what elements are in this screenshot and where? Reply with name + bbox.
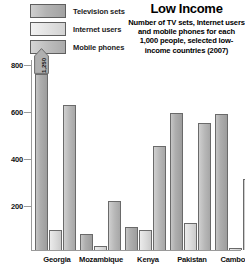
y-tick-label-800: 800 xyxy=(1,61,23,70)
x-tick-label-kenya: Kenya xyxy=(125,255,171,264)
legend-item-internet-users: Internet users xyxy=(0,21,128,37)
title-block: Low Income Number of TV sets, Internet u… xyxy=(128,2,245,55)
x-tick-label-cambodia: Cambodia xyxy=(212,255,245,264)
bar-group-pakistan xyxy=(170,55,212,250)
bar-group-kenya xyxy=(125,55,167,250)
x-tick-label-mozambique: Mozambique xyxy=(74,255,128,264)
y-tick-label-400: 400 xyxy=(1,155,23,164)
bar-mozambique-internet-users[interactable] xyxy=(94,246,107,250)
chart-root: Television sets Internet users Mobile ph… xyxy=(0,0,245,270)
legend-label-internet-users: Internet users xyxy=(73,25,121,34)
plot-area: 800 600 400 200 1,250 xyxy=(0,55,245,270)
x-tick-label-pakistan: Pakistan xyxy=(167,255,217,264)
y-tick-label-200: 200 xyxy=(1,202,23,211)
y-tick-label-600: 600 xyxy=(1,108,23,117)
bar-group-mozambique xyxy=(80,55,122,250)
bar-kenya-mobile-phones[interactable] xyxy=(153,146,166,250)
chart-legend: Television sets Internet users Mobile ph… xyxy=(0,3,128,57)
y-tick-mark-600 xyxy=(24,112,31,113)
bar-kenya-television-sets[interactable] xyxy=(125,227,138,250)
bar-kenya-internet-users[interactable] xyxy=(139,230,152,250)
bar-pakistan-television-sets[interactable] xyxy=(170,113,183,250)
legend-swatch-internet-users xyxy=(30,22,66,36)
bar-cambodia-mobile-phones[interactable] xyxy=(243,179,245,250)
bar-georgia-mobile-phones[interactable] xyxy=(63,105,76,250)
legend-swatch-television-sets xyxy=(30,4,66,18)
bar-georgia-internet-users[interactable] xyxy=(49,230,62,250)
x-axis-line xyxy=(31,250,241,251)
chart-title: Low Income xyxy=(128,2,245,16)
x-axis-labels: Georgia Mozambique Kenya Pakistan Cambod… xyxy=(32,253,241,269)
legend-item-mobile-phones: Mobile phones xyxy=(0,39,128,55)
bar-group-cambodia xyxy=(215,55,245,250)
bar-georgia-overflow-value: 1,250 xyxy=(41,58,44,73)
y-tick-mark-800 xyxy=(24,65,31,66)
legend-label-mobile-phones: Mobile phones xyxy=(73,43,124,52)
y-axis-labels: 800 600 400 200 xyxy=(0,55,23,255)
bar-groups: 1,250 xyxy=(32,55,241,250)
bar-mozambique-television-sets[interactable] xyxy=(80,234,93,250)
legend-item-television-sets: Television sets xyxy=(0,3,128,19)
chart-subtitle: Number of TV sets, Internet users and mo… xyxy=(128,18,245,55)
bar-georgia-television-sets[interactable] xyxy=(35,74,48,250)
bar-pakistan-internet-users[interactable] xyxy=(184,223,197,250)
bar-cambodia-internet-users[interactable] xyxy=(229,248,242,250)
y-tick-mark-400 xyxy=(24,159,31,160)
y-tick-mark-200 xyxy=(24,206,31,207)
legend-label-television-sets: Television sets xyxy=(73,7,125,16)
bar-mozambique-mobile-phones[interactable] xyxy=(108,201,121,250)
bar-cambodia-television-sets[interactable] xyxy=(215,114,228,250)
bar-pakistan-mobile-phones[interactable] xyxy=(198,123,211,250)
bar-group-georgia: 1,250 xyxy=(35,55,77,250)
